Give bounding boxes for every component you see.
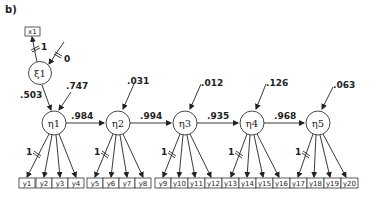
latent-eta3: η3 [173,111,197,135]
svg-text:η5: η5 [312,118,324,129]
svg-text:y8: y8 [139,180,148,188]
indicator-y14: y14 [239,178,256,188]
svg-text:y13: y13 [224,180,237,188]
disturbance-eta2: .031 [123,76,149,109]
loading-label-x1: 1 [41,42,47,52]
svg-text:y12: y12 [207,180,220,188]
svg-text:y16: y16 [275,180,289,188]
fixed-loading-eta1: 1 [26,147,32,157]
path-label-xi1-eta1: .503 [20,90,42,100]
path-eta1-eta2: .984 [66,111,104,123]
svg-text:y4: y4 [72,180,81,188]
path-eta2-eta3: .994 [130,111,171,123]
indicator-y9: y9 [155,178,171,188]
indicator-y6: y6 [103,178,119,188]
indicator-y8: y8 [135,178,151,188]
indicator-y11: y11 [188,178,205,188]
disturbance-eta1: .747 [59,81,88,110]
svg-text:y7: y7 [123,180,132,188]
fixed-loading-eta2: 1 [94,147,100,157]
indicator-y17: y17 [290,178,307,188]
indicator-y3: y3 [52,178,68,188]
svg-text:.012: .012 [201,78,223,88]
error-label-xi1: 0 [64,54,70,64]
svg-text:.968: .968 [274,111,296,121]
svg-text:y10: y10 [173,180,186,188]
disturbance-eta4: .126 [256,78,288,109]
svg-text:y14: y14 [241,180,255,188]
svg-text:y6: y6 [107,180,116,188]
svg-text:y20: y20 [343,180,356,188]
latent-eta2: η2 [106,111,130,135]
path-eta4-eta5: .968 [264,111,304,123]
loadings-eta5 [298,134,346,177]
svg-text:.994: .994 [140,111,162,121]
disturbance-eta5: .063 [322,80,355,109]
panel-label: b) [5,4,17,15]
svg-text:x1: x1 [28,28,37,36]
svg-text:y11: y11 [190,180,203,188]
latent-eta5: η5 [306,111,330,135]
svg-text:η1: η1 [48,118,60,129]
indicator-y1: y1 [19,178,35,188]
latent-xi1: ξ1 [29,62,52,85]
loadings-eta2 [95,134,143,177]
svg-text:y18: y18 [309,180,322,188]
disturbance-eta3: .012 [190,78,223,109]
indicator-y20: y20 [341,178,358,188]
svg-text:.063: .063 [333,80,355,90]
indicator-y10: y10 [171,178,188,188]
svg-text:y1: y1 [23,180,32,188]
indicator-row: y1 y2 y3 y4 y5 y6 y7 y8 y9 y10 y11 y12 y… [19,178,358,188]
indicator-x1: x1 [25,27,40,36]
indicator-y19: y19 [324,178,341,188]
svg-text:y9: y9 [159,180,168,188]
structural-arrow-xi1-eta1 [42,85,51,110]
indicator-y16: y16 [273,178,290,188]
indicator-y12: y12 [205,178,222,188]
indicator-y18: y18 [307,178,324,188]
indicator-y4: y4 [68,178,84,188]
svg-text:.031: .031 [127,76,149,86]
latent-eta1: η1 [42,111,66,135]
loadings-eta4 [231,134,279,177]
loadings-eta1 [27,134,76,177]
indicator-y2: y2 [36,178,52,188]
latent-eta4: η4 [240,111,264,135]
svg-text:ξ1: ξ1 [34,68,46,79]
svg-text:y19: y19 [326,180,339,188]
svg-text:.126: .126 [266,78,288,88]
svg-text:η4: η4 [246,118,258,129]
indicator-y13: y13 [222,178,239,188]
svg-text:y17: y17 [292,180,305,188]
fixed-loading-eta3: 1 [161,147,167,157]
svg-text:.747: .747 [66,81,88,91]
indicator-y7: y7 [119,178,135,188]
svg-text:η2: η2 [112,118,124,129]
svg-text:y5: y5 [91,180,100,188]
fixed-loading-eta5: 1 [295,147,301,157]
loadings-eta3 [163,134,211,177]
svg-text:y2: y2 [40,180,49,188]
path-eta3-eta4: .935 [197,111,238,123]
svg-text:.935: .935 [207,111,229,121]
fixed-loading-eta4: 1 [228,147,234,157]
sem-path-diagram: b) x1 1 0 ξ1 .503 .747 .031 .012 .126 .0… [0,0,372,198]
indicator-y5: y5 [87,178,103,188]
svg-text:y3: y3 [56,180,65,188]
svg-text:y15: y15 [258,180,271,188]
indicator-y15: y15 [256,178,273,188]
svg-text:.984: .984 [71,111,93,121]
svg-text:η3: η3 [179,118,191,129]
